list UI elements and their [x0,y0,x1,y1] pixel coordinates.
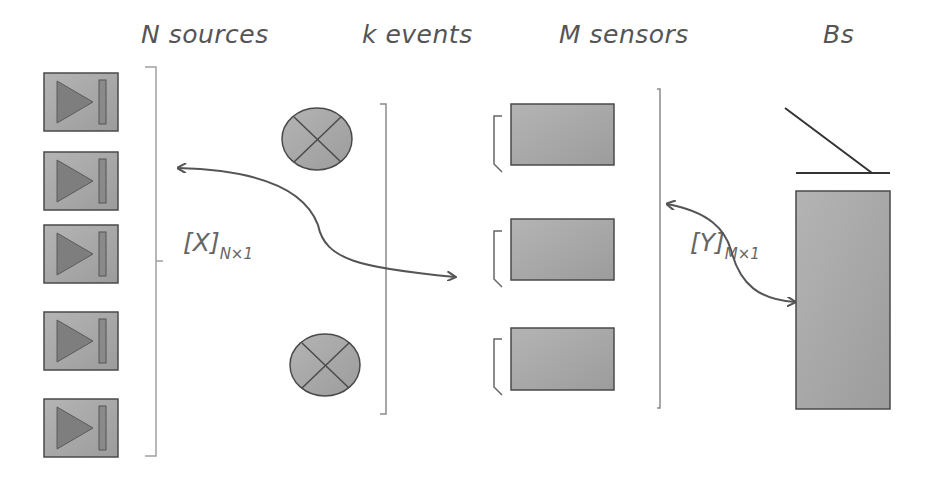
sensors-bracket [657,89,660,408]
sources-bracket [145,67,163,456]
events-divider [380,104,386,414]
base-station [785,108,890,409]
x-link-arrow [178,168,455,277]
sensor-2 [494,219,614,287]
source-3 [44,225,118,283]
sensor-3 [494,328,614,395]
source-4 [44,312,118,370]
source-2 [44,152,118,210]
y-link-arrow [667,204,795,302]
event-2 [290,334,360,396]
sensor-1 [494,104,614,172]
source-1 [44,73,118,131]
source-5 [44,399,118,457]
event-1 [282,108,352,170]
diagram-canvas [0,0,933,479]
